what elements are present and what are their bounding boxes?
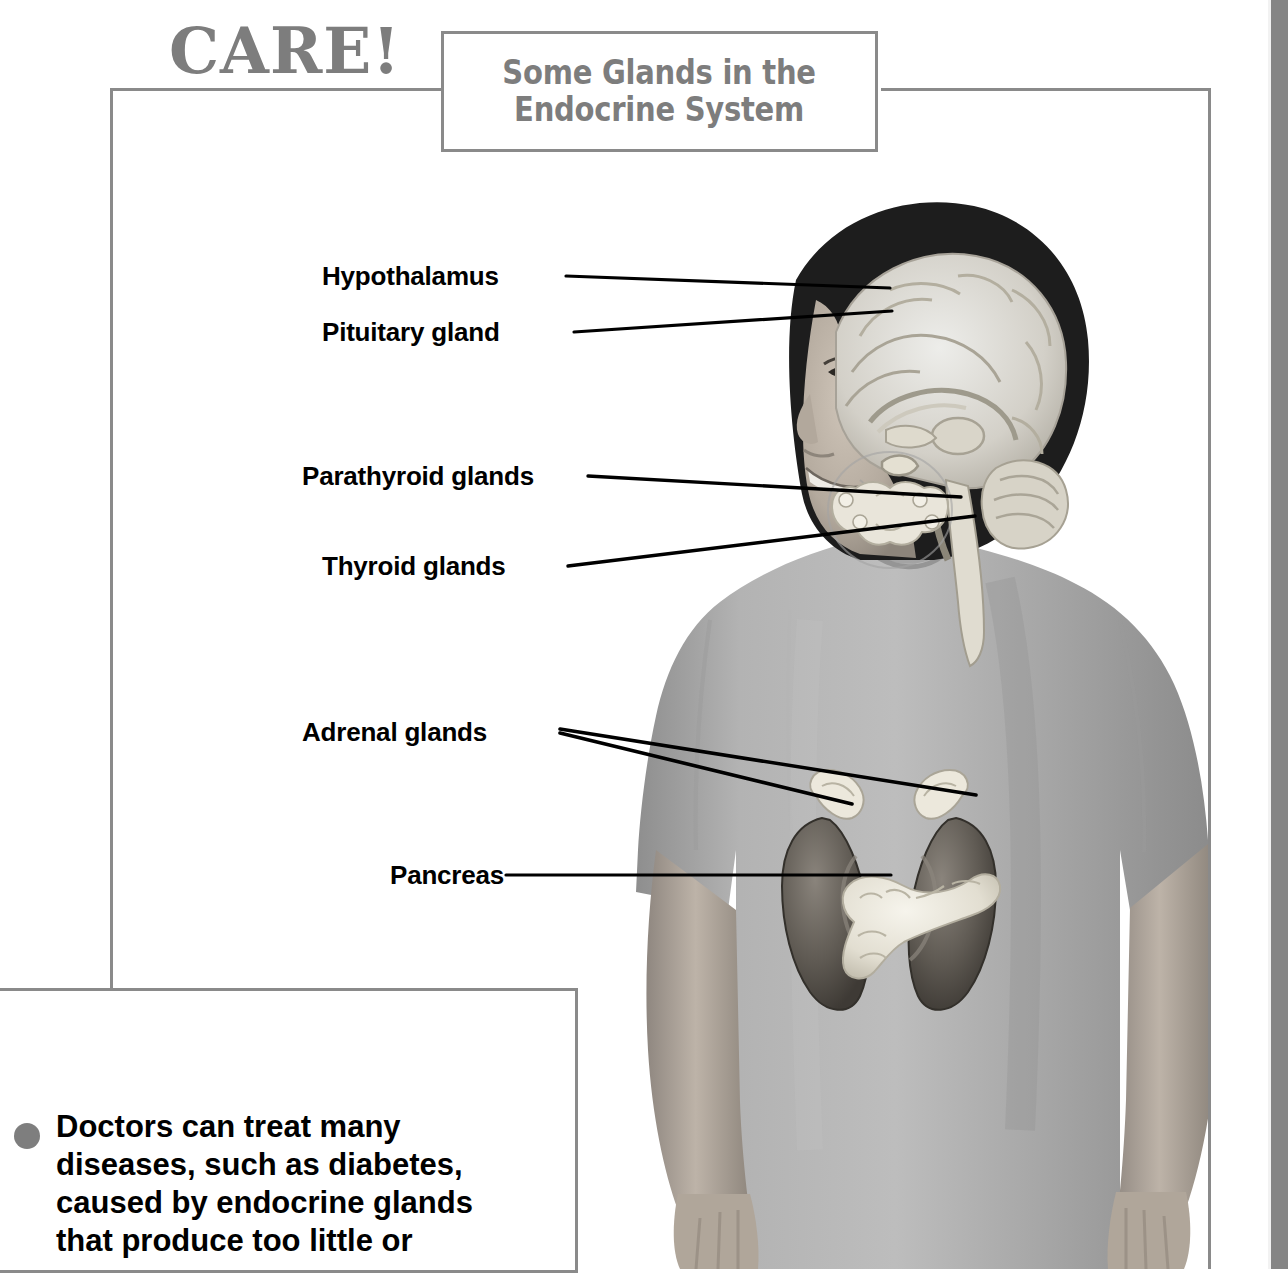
label-pancreas: Pancreas xyxy=(390,860,504,891)
care-body-text: Doctors can treat many diseases, such as… xyxy=(56,1108,556,1260)
label-parathyroid-glands: Parathyroid glands xyxy=(302,461,534,492)
label-adrenal-glands: Adrenal glands xyxy=(302,717,487,748)
page-edge-band xyxy=(1271,0,1288,1269)
frame-right-border xyxy=(1208,88,1211,1269)
frame-left-border xyxy=(110,88,113,990)
care-heading: CARE! xyxy=(0,14,574,88)
label-hypothalamus: Hypothalamus xyxy=(322,261,499,292)
bullet-dot-icon xyxy=(14,1123,40,1149)
label-thyroid-glands: Thyroid glands xyxy=(322,551,506,582)
label-pituitary-gland: Pituitary gland xyxy=(322,317,500,348)
endocrine-photo-illustration xyxy=(560,150,1208,1269)
